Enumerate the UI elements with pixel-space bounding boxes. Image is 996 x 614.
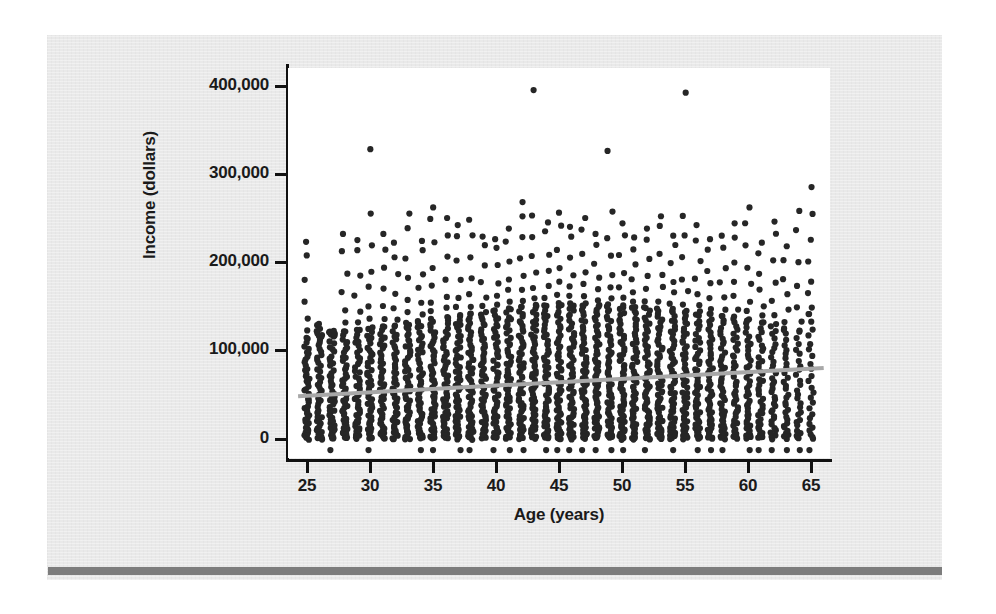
x-tick-mark: [810, 462, 813, 473]
scatter-figure: 0100,000200,000300,000400,000 2530354045…: [47, 35, 942, 555]
y-tick-label: 0: [137, 428, 269, 448]
y-axis-title: Income (dollars): [140, 85, 160, 305]
y-tick-mark: [275, 173, 286, 176]
x-tick-mark: [621, 462, 624, 473]
x-tick-label: 50: [592, 476, 652, 496]
x-tick-label: 35: [403, 476, 463, 496]
x-tick-mark: [747, 462, 750, 473]
slide-page: 0100,000200,000300,000400,000 2530354045…: [0, 0, 996, 614]
plot-area: [288, 68, 830, 458]
y-tick-mark: [275, 85, 286, 88]
x-tick-label: 60: [718, 476, 778, 496]
x-tick-label: 30: [340, 476, 400, 496]
x-tick-mark: [306, 462, 309, 473]
x-tick-mark: [558, 462, 561, 473]
x-axis-title: Age (years): [288, 505, 830, 525]
x-tick-mark: [432, 462, 435, 473]
data-points: [301, 87, 816, 453]
y-tick-label: 100,000: [137, 339, 269, 359]
x-tick-label: 45: [529, 476, 589, 496]
y-tick-mark: [275, 261, 286, 264]
x-tick-mark: [495, 462, 498, 473]
x-tick-label: 40: [466, 476, 526, 496]
y-tick-mark: [275, 438, 286, 441]
scatter-canvas: [288, 68, 830, 458]
x-tick-label: 55: [655, 476, 715, 496]
slide-bottom-rule: [48, 567, 942, 575]
x-tick-label: 25: [277, 476, 337, 496]
y-tick-mark: [275, 349, 286, 352]
x-tick-label: 65: [781, 476, 841, 496]
x-tick-mark: [684, 462, 687, 473]
x-tick-mark: [369, 462, 372, 473]
